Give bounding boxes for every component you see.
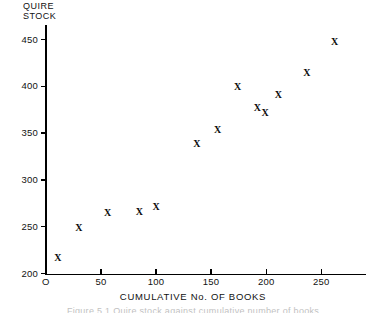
y-tick-label: 250 [8,221,38,232]
x-tick-label: 50 [84,276,118,287]
data-point-marker: X [193,139,200,149]
data-point-marker: X [152,202,159,212]
scatter-plot-figure: QUIRE STOCK 200250300350400450 O50100150… [0,0,386,314]
x-tick-label: O [29,276,63,287]
data-point-marker: X [275,90,282,100]
y-axis-title: QUIRE STOCK [23,2,56,21]
data-point-marker: X [75,223,82,233]
data-point-marker: X [254,103,261,113]
x-tick-label: 200 [249,276,283,287]
y-tick-label: 400 [8,80,38,91]
data-point-marker: X [136,207,143,217]
data-point-marker: X [54,253,61,263]
data-point-marker: X [104,208,111,218]
x-tick-label: 100 [139,276,173,287]
x-tick-label: 250 [304,276,338,287]
x-tick-label: 150 [194,276,228,287]
plot-area [46,25,366,274]
x-axis-title: CUMULATIVE No. OF BOOKS [0,291,386,302]
data-point-marker: X [261,108,268,118]
figure-caption-partial: Figure 5.1 Quire stock against cumulativ… [0,306,386,313]
data-point-marker: X [331,37,338,47]
data-point-marker: X [303,68,310,78]
data-point-marker: X [214,125,221,135]
data-point-marker: X [234,82,241,92]
y-tick-label: 350 [8,127,38,138]
y-tick-label: 300 [8,174,38,185]
y-tick-label: 450 [8,34,38,45]
